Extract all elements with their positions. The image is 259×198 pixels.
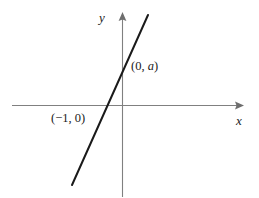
y-intercept-label: (0, a) <box>131 60 158 73</box>
y-intercept-prefix: (0, <box>131 59 148 73</box>
x-axis-label: x <box>236 114 242 127</box>
plot-canvas <box>0 0 259 198</box>
function-line <box>72 15 148 185</box>
y-intercept-suffix: ) <box>154 59 158 73</box>
y-axis-label: y <box>99 11 105 24</box>
linear-graph-figure: y x (0, a) (−1, 0) <box>0 0 259 198</box>
x-intercept-label: (−1, 0) <box>51 112 85 125</box>
